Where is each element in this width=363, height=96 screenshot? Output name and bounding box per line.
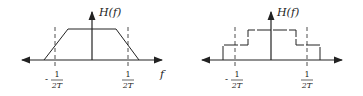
svg-text:2T: 2T — [122, 81, 134, 90]
tick-label-right: 1 2T — [122, 70, 134, 90]
svg-text:1: 1 — [304, 70, 309, 79]
h-axis-label: H(f) — [276, 6, 299, 19]
svg-text:-: - — [45, 74, 48, 84]
svg-text:1: 1 — [125, 70, 130, 79]
tick-label-right: 1 2T — [301, 70, 313, 90]
tick-label-left: - 1 2T — [45, 70, 63, 90]
tick-label-left: - 1 2T — [225, 70, 243, 90]
svg-text:2T: 2T — [51, 81, 63, 90]
h-axis-label: H(f) — [98, 6, 121, 19]
frequency-response-figure: H(f) f - 1 2T 1 2T H(f) - 1 2T 1 — [0, 0, 363, 96]
svg-text:2T: 2T — [231, 81, 243, 90]
svg-text:2T: 2T — [301, 81, 313, 90]
svg-text:-: - — [225, 74, 228, 84]
staircase-diagram: H(f) - 1 2T 1 2T — [202, 6, 342, 90]
svg-text:1: 1 — [54, 70, 59, 79]
f-axis-label: f — [159, 68, 166, 81]
svg-text:1: 1 — [234, 70, 239, 79]
trapezoid-diagram: H(f) f - 1 2T 1 2T — [22, 6, 166, 90]
